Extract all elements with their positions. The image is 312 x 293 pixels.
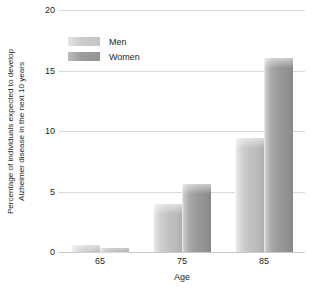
y-axis-label-line1: Percentage of individuals expected to de… xyxy=(7,48,16,213)
x-axis-ticks: 657585 xyxy=(59,256,305,266)
legend-item-women: Women xyxy=(68,50,140,63)
bar-women-65 xyxy=(100,248,129,252)
legend-label: Men xyxy=(109,37,127,47)
bar-chart: Percentage of individuals expected to de… xyxy=(0,0,312,293)
bar-men-75 xyxy=(153,204,182,252)
bar-women-85 xyxy=(264,58,293,252)
x-tick-label: 85 xyxy=(223,256,305,266)
y-axis-label-line2: Alzheimer disease in the next 10 years xyxy=(17,48,28,213)
bar-women-75 xyxy=(182,184,211,252)
legend-swatch-women xyxy=(68,52,100,61)
y-tick-label: 0 xyxy=(33,247,55,257)
y-tick-label: 5 xyxy=(33,187,55,197)
x-axis-label: Age xyxy=(59,272,305,282)
y-tick-label: 10 xyxy=(33,126,55,136)
legend-swatch-men xyxy=(68,37,100,46)
legend: MenWomen xyxy=(68,35,140,65)
bar-group xyxy=(141,10,223,252)
legend-label: Women xyxy=(109,52,140,62)
gridline xyxy=(59,252,305,253)
y-tick-label: 15 xyxy=(33,66,55,76)
bar-men-85 xyxy=(235,138,264,252)
bar-group xyxy=(223,10,305,252)
y-axis-ticks: 05101520 xyxy=(33,0,55,262)
x-tick-label: 75 xyxy=(141,256,223,266)
legend-item-men: Men xyxy=(68,35,140,48)
y-axis-label: Percentage of individuals expected to de… xyxy=(0,0,34,262)
x-tick-label: 65 xyxy=(59,256,141,266)
y-tick-label: 20 xyxy=(33,5,55,15)
bar-men-65 xyxy=(71,245,100,252)
